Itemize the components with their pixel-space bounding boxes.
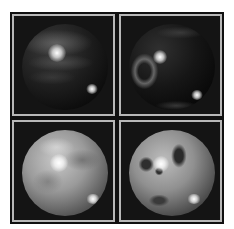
sphere-dark-banded [22, 24, 108, 110]
specular-highlight [187, 194, 201, 204]
panel-top-right [117, 12, 224, 118]
specular-highlight [50, 154, 68, 172]
panel-frame [119, 120, 222, 222]
sphere-dark-ring [129, 24, 215, 110]
panel-frame [119, 14, 222, 116]
panel-bottom-left [10, 118, 117, 224]
sphere-bright-mottled [22, 130, 108, 216]
panel-frame [12, 14, 115, 116]
specular-highlight [86, 84, 98, 94]
panel-top-left [10, 12, 117, 118]
specular-highlight [191, 90, 203, 100]
specular-highlight [153, 156, 169, 172]
specular-highlight [153, 50, 167, 64]
specular-highlight [86, 194, 100, 204]
sphere-grid [10, 12, 224, 224]
specular-highlight [48, 44, 66, 62]
sphere-bright-spotted [129, 130, 215, 216]
panel-bottom-right [117, 118, 224, 224]
panel-frame [12, 120, 115, 222]
